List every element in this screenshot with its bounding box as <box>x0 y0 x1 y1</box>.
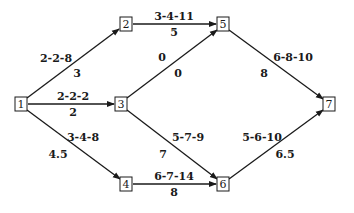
edge-5-7: 6-8-10 8 <box>229 30 323 99</box>
node-4: 4 <box>120 177 132 191</box>
network-diagram: 2-2-8 3 2-2-2 2 3-4-8 4.5 3-4-11 5 0 0 5… <box>0 0 354 213</box>
edge-4-6: 6-7-14 8 <box>133 170 216 199</box>
edge-1-4-estimates: 3-4-8 <box>67 131 99 144</box>
edge-3-5-expected: 0 <box>174 67 182 80</box>
edge-6-7-expected: 6.5 <box>275 148 294 161</box>
edge-1-4: 3-4-8 4.5 <box>27 110 120 179</box>
edge-3-6-estimates: 5-7-9 <box>172 131 204 144</box>
node-1: 1 <box>15 97 27 111</box>
edge-2-5-estimates: 3-4-11 <box>154 10 194 23</box>
edge-5-7-estimates: 6-8-10 <box>273 51 313 64</box>
node-2-label: 2 <box>123 18 130 31</box>
edge-1-3: 2-2-2 2 <box>28 90 114 119</box>
node-3: 3 <box>115 97 127 111</box>
node-6-label: 6 <box>220 178 227 191</box>
node-2: 2 <box>120 17 132 31</box>
node-5: 5 <box>217 17 229 31</box>
node-3-label: 3 <box>118 98 125 111</box>
edge-1-2: 2-2-8 3 <box>27 29 119 98</box>
edge-2-5-expected: 5 <box>170 26 178 39</box>
edge-3-5: 0 0 <box>127 30 217 98</box>
edge-2-5: 3-4-11 5 <box>133 10 216 39</box>
edge-6-7: 5-6-10 6.5 <box>229 110 323 179</box>
edge-4-6-expected: 8 <box>170 186 178 199</box>
edge-3-6-expected: 7 <box>159 148 167 161</box>
node-1-label: 1 <box>18 98 25 111</box>
edge-1-3-estimates: 2-2-2 <box>57 90 89 103</box>
edge-6-7-estimates: 5-6-10 <box>242 131 282 144</box>
edge-5-7-expected: 8 <box>260 67 268 80</box>
edge-1-2-estimates: 2-2-8 <box>40 52 72 65</box>
edge-3-5-estimates: 0 <box>158 51 166 64</box>
node-4-label: 4 <box>123 178 130 191</box>
edge-3-6: 5-7-9 7 <box>127 110 217 179</box>
node-6: 6 <box>217 177 229 191</box>
edge-1-3-expected: 2 <box>69 106 77 119</box>
node-5-label: 5 <box>220 18 227 31</box>
edge-1-2-expected: 3 <box>73 67 81 80</box>
edge-1-4-expected: 4.5 <box>48 148 67 161</box>
node-7: 7 <box>323 97 335 111</box>
node-7-label: 7 <box>326 98 333 111</box>
edge-4-6-estimates: 6-7-14 <box>154 170 194 183</box>
